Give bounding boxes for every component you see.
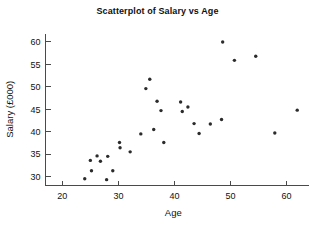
x-tick-label: 60	[282, 191, 292, 201]
x-axis-label: Age	[165, 207, 182, 218]
data-point	[99, 160, 102, 163]
data-point	[273, 131, 276, 134]
data-point	[89, 159, 92, 162]
y-tick-label: 40	[30, 127, 40, 137]
data-point	[139, 132, 142, 135]
y-tick-label: 45	[30, 105, 40, 115]
y-tick-label: 35	[30, 149, 40, 159]
data-point	[197, 132, 200, 135]
data-point	[128, 150, 131, 153]
plot-area: 30354045505560 2030405060 Age Salary (£0…	[0, 0, 315, 235]
data-point	[148, 77, 151, 80]
data-point	[105, 178, 108, 181]
data-point	[144, 87, 147, 90]
data-point	[296, 108, 299, 111]
data-point	[254, 55, 257, 58]
x-tick-label: 40	[169, 191, 179, 201]
data-point	[220, 118, 223, 121]
data-point	[118, 141, 121, 144]
y-axis-label: Salary (£000)	[4, 81, 15, 138]
data-point	[159, 109, 162, 112]
data-point	[83, 177, 86, 180]
data-point	[90, 169, 93, 172]
data-point	[233, 59, 236, 62]
data-point	[162, 141, 165, 144]
data-point	[106, 155, 109, 158]
data-point	[192, 122, 195, 125]
y-tick-label: 30	[30, 172, 40, 182]
y-axis-ticks: 30354045505560	[30, 37, 50, 182]
x-tick-label: 20	[57, 191, 67, 201]
x-tick-label: 50	[226, 191, 236, 201]
y-tick-label: 50	[30, 82, 40, 92]
x-tick-label: 30	[113, 191, 123, 201]
scatterplot-figure: Scatterplot of Salary vs Age 30354045505…	[0, 0, 315, 235]
data-point	[209, 122, 212, 125]
data-point	[179, 100, 182, 103]
data-point	[186, 105, 189, 108]
data-point	[155, 99, 158, 102]
data-point	[221, 40, 224, 43]
data-point	[181, 110, 184, 113]
data-point	[152, 128, 155, 131]
data-point	[111, 169, 114, 172]
data-point	[95, 154, 98, 157]
data-point	[118, 146, 121, 149]
y-tick-label: 55	[30, 60, 40, 70]
y-tick-label: 60	[30, 37, 40, 47]
x-axis-ticks: 2030405060	[57, 181, 291, 201]
data-points	[83, 40, 299, 181]
